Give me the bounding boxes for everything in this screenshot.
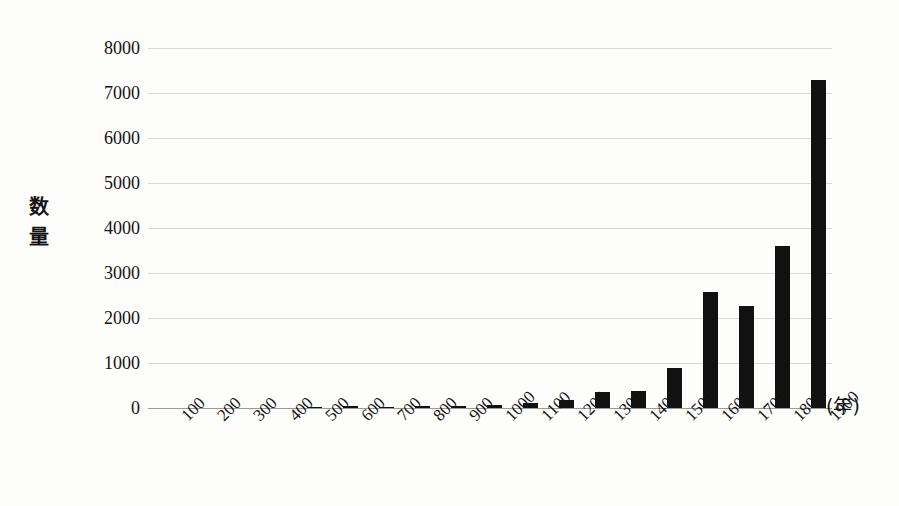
- x-axis-tick-label: 1400: [646, 412, 658, 424]
- bar: [811, 80, 826, 408]
- y-axis-tick-label: 0: [70, 399, 140, 417]
- x-axis-tick-label: 900: [466, 412, 478, 424]
- y-axis-tick-label: 8000: [70, 39, 140, 57]
- y-axis-tick-label: 4000: [70, 219, 140, 237]
- plot-area: [148, 48, 832, 408]
- x-axis-tick-label: 300: [250, 412, 262, 424]
- x-axis-tick-label: 1600: [718, 412, 730, 424]
- y-axis-title-char-2: 量: [22, 222, 56, 252]
- y-axis-tick-label: 1000: [70, 354, 140, 372]
- y-axis-title: 数 量: [22, 192, 56, 252]
- x-axis-tick-label: 1200: [574, 412, 586, 424]
- bars-layer: [148, 48, 832, 408]
- y-axis-tick-label: 7000: [70, 84, 140, 102]
- x-axis-tick-label: 1500: [682, 412, 694, 424]
- x-axis-tick-label: 100: [178, 412, 190, 424]
- x-axis-tick-label: 200: [214, 412, 226, 424]
- y-axis-tick-labels: 800070006000500040003000200010000: [58, 48, 140, 408]
- bar-chart-figure: 数 量 800070006000500040003000200010000 10…: [0, 0, 899, 506]
- x-axis-tick-label: 1700: [754, 412, 766, 424]
- x-axis-tick-labels: 1002003004005006007008009001000110012001…: [148, 412, 832, 492]
- y-axis-title-char-1: 数: [22, 192, 56, 222]
- x-axis-tick-label: 800: [430, 412, 442, 424]
- x-axis-tick-label: 600: [358, 412, 370, 424]
- x-axis-tick-label: 1800: [790, 412, 802, 424]
- bar: [775, 246, 790, 408]
- x-axis-tick-label: 1100: [538, 412, 550, 424]
- x-axis-tick-label: 1300: [610, 412, 622, 424]
- y-axis-tick-label: 3000: [70, 264, 140, 282]
- y-axis-tick-label: 6000: [70, 129, 140, 147]
- x-axis-tick-label: 700: [394, 412, 406, 424]
- x-axis-unit-label: (年): [826, 396, 860, 416]
- y-axis-tick-label: 2000: [70, 309, 140, 327]
- x-axis-tick-label: 1000: [502, 412, 514, 424]
- x-axis-tick-label: 400: [286, 412, 298, 424]
- x-axis-tick-label: 500: [322, 412, 334, 424]
- y-axis-tick-label: 5000: [70, 174, 140, 192]
